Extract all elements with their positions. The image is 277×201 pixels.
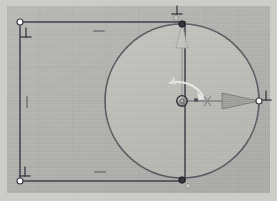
vertex-bottom-left[interactable] [17, 178, 23, 184]
gizmo-origin-inner [180, 99, 184, 103]
vertex-top-circle[interactable] [179, 21, 185, 27]
cad-sketch-viewport[interactable] [0, 0, 277, 201]
sketch-canvas[interactable] [0, 0, 277, 201]
gizmo-drag-dot[interactable] [194, 98, 198, 102]
vertex-right-circle[interactable] [256, 98, 262, 104]
vertex-bottom-circle[interactable] [179, 177, 185, 183]
vertex-top-left[interactable] [17, 19, 23, 25]
vertex-bottom-ghost[interactable] [186, 184, 191, 189]
vertex-top-ghost[interactable] [174, 16, 179, 21]
